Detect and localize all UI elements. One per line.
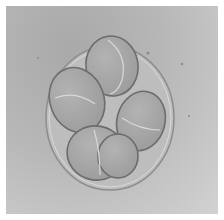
embryo-micrograph [0, 0, 224, 220]
